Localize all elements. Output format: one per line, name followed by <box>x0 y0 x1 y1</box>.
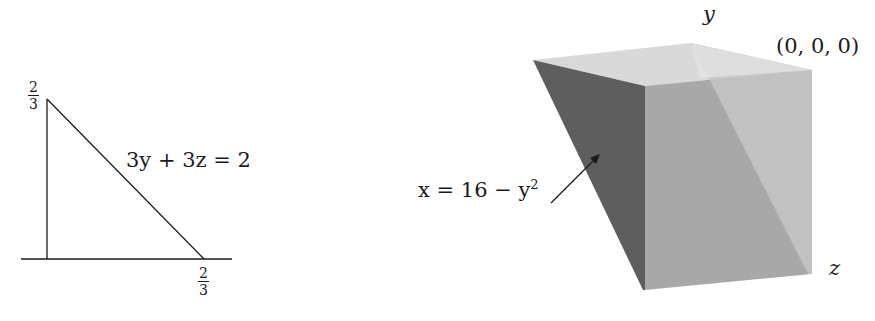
surface-equation-text: x = 16 − y <box>418 178 530 202</box>
surface-equation-exponent: 2 <box>530 177 538 192</box>
surface-equation-label: x = 16 − y2 <box>418 180 539 201</box>
vertical-intercept-numerator: 2 <box>29 80 38 94</box>
horizontal-intercept-numerator: 2 <box>199 266 208 280</box>
origin-label: (0, 0, 0) <box>776 36 859 57</box>
z-axis-label: z <box>829 258 840 279</box>
vertical-intercept-denominator: 3 <box>29 97 38 111</box>
surface-arrow-shaft <box>551 157 597 203</box>
plane-equation-label: 3y + 3z = 2 <box>126 150 251 171</box>
solid-dark-face <box>533 60 645 290</box>
horizontal-intercept-denominator: 3 <box>199 283 208 297</box>
horizontal-intercept-label: 2 3 <box>198 266 209 297</box>
hypotenuse-line <box>47 99 204 259</box>
y-axis-label: y <box>703 4 715 25</box>
vertical-intercept-label: 2 3 <box>28 80 39 111</box>
